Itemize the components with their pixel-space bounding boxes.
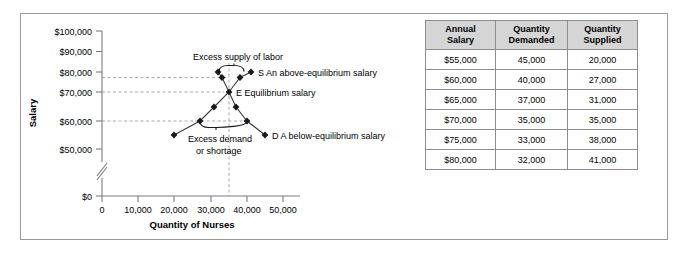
y-tick-label: $0 xyxy=(82,192,92,202)
y-tick-label: $60,000 xyxy=(59,117,92,127)
excess-demand-brace xyxy=(200,122,247,131)
dashed-gridlines xyxy=(102,63,247,196)
header-line-1: Quantity xyxy=(584,24,621,34)
data-point xyxy=(171,132,178,139)
cell-salary: $60,000 xyxy=(426,70,496,90)
demand-point-label: D A below-equilibrium salary xyxy=(272,131,386,141)
table-row: $75,000 33,000 38,000 xyxy=(426,130,638,150)
table-row: $70,000 35,000 35,000 xyxy=(426,110,638,130)
table-row: $80,000 32,000 41,000 xyxy=(426,150,638,170)
excess-supply-label: Excess supply of labor xyxy=(193,52,283,62)
column-header-quantity-supplied: Quantity Supplied xyxy=(568,21,638,50)
cell-supplied: 41,000 xyxy=(568,150,638,170)
cell-demanded: 33,000 xyxy=(496,130,568,150)
header-line-2: Salary xyxy=(447,35,474,45)
supply-curve xyxy=(218,72,265,135)
cell-demanded: 45,000 xyxy=(496,50,568,70)
x-tick-label: 30,000 xyxy=(197,205,225,215)
header-line-1: Annual xyxy=(445,24,476,34)
cell-supplied: 35,000 xyxy=(568,110,638,130)
x-tick-label: 40,000 xyxy=(233,205,261,215)
cell-supplied: 27,000 xyxy=(568,70,638,90)
data-point xyxy=(248,69,255,76)
y-tick-label: $80,000 xyxy=(59,68,92,78)
table-header-row: Annual Salary Quantity Demanded Quantity… xyxy=(426,21,638,50)
table-row: $65,000 37,000 31,000 xyxy=(426,90,638,110)
cell-supplied: 20,000 xyxy=(568,50,638,70)
cell-salary: $55,000 xyxy=(426,50,496,70)
x-tick-label: 20,000 xyxy=(160,205,188,215)
chart-svg: $100,000 $90,000 $80,000 $70,000 $60,000… xyxy=(0,0,400,240)
y-tick-labels: $100,000 $90,000 $80,000 $70,000 $60,000… xyxy=(54,27,92,202)
cell-salary: $70,000 xyxy=(426,110,496,130)
x-axis-title: Quantity of Nurses xyxy=(150,219,235,230)
x-tick-label: 0 xyxy=(99,205,104,215)
table-row: $60,000 40,000 27,000 xyxy=(426,70,638,90)
cell-supplied: 31,000 xyxy=(568,90,638,110)
table-row: $55,000 45,000 20,000 xyxy=(426,50,638,70)
cell-supplied: 38,000 xyxy=(568,130,638,150)
x-ticks xyxy=(102,196,283,202)
y-tick-label: $100,000 xyxy=(54,27,92,37)
x-tick-label: 50,000 xyxy=(269,205,297,215)
excess-demand-label-line2: or shortage xyxy=(196,146,242,156)
cell-salary: $80,000 xyxy=(426,150,496,170)
header-line-1: Quantity xyxy=(513,24,550,34)
cell-demanded: 35,000 xyxy=(496,110,568,130)
supply-demand-chart: $100,000 $90,000 $80,000 $70,000 $60,000… xyxy=(0,0,400,240)
cell-salary: $75,000 xyxy=(426,130,496,150)
excess-demand-label-line1: Excess demand xyxy=(188,134,252,144)
y-tick-label: $70,000 xyxy=(59,88,92,98)
salary-quantity-table: Annual Salary Quantity Demanded Quantity… xyxy=(425,20,638,170)
y-tick-label: $90,000 xyxy=(59,47,92,57)
column-header-annual-salary: Annual Salary xyxy=(426,21,496,50)
cell-demanded: 37,000 xyxy=(496,90,568,110)
y-tick-label: $50,000 xyxy=(59,145,92,155)
cell-demanded: 32,000 xyxy=(496,150,568,170)
equilibrium-label: E Equilibrium salary xyxy=(236,88,316,98)
x-tick-label: 10,000 xyxy=(124,205,152,215)
cell-demanded: 40,000 xyxy=(496,70,568,90)
header-line-2: Demanded xyxy=(508,35,554,45)
y-axis-title: Salary xyxy=(27,98,38,127)
column-header-quantity-demanded: Quantity Demanded xyxy=(496,21,568,50)
header-line-2: Supplied xyxy=(584,35,622,45)
x-tick-labels: 0 10,000 20,000 30,000 40,000 50,000 xyxy=(99,205,296,215)
excess-supply-brace xyxy=(219,64,244,72)
supply-point-label: S An above-equilibrium salary xyxy=(258,68,378,78)
figure-container: $100,000 $90,000 $80,000 $70,000 $60,000… xyxy=(0,0,675,254)
cell-salary: $65,000 xyxy=(426,90,496,110)
